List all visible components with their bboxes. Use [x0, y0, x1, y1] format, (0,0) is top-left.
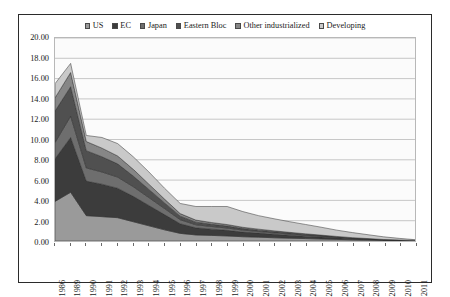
- x-axis-tick-label: 1992: [120, 280, 129, 296]
- x-axis-tick-label: 1986: [58, 280, 67, 296]
- x-axis-tickmark: [54, 243, 55, 246]
- x-axis-tick-label: 2004: [309, 280, 318, 296]
- stacked-area-plot: [55, 38, 415, 241]
- x-axis-tick-label: 2009: [388, 280, 397, 296]
- plot-area: [54, 37, 416, 242]
- legend-swatch-icon: [112, 23, 118, 29]
- y-axis: 20.0018.0016.0014.0012.0010.008.006.004.…: [19, 37, 52, 242]
- x-axis-tickmark: [70, 243, 71, 246]
- x-axis-tick-label: 1994: [152, 280, 161, 296]
- y-axis-tick-label: 4.00: [34, 197, 49, 206]
- x-axis-tick-label: 1993: [136, 280, 145, 296]
- x-axis-tickmark: [400, 243, 401, 246]
- chart-screenshot: USECJapanEastern BlocOther industrialize…: [0, 0, 450, 297]
- legend-swatch-icon: [235, 23, 241, 29]
- chart-frame: USECJapanEastern BlocOther industrialize…: [18, 14, 432, 283]
- legend-item-label: EC: [120, 22, 131, 30]
- legend-swatch-icon: [85, 23, 91, 29]
- legend-item-label: Japan: [148, 22, 167, 30]
- x-axis-tick-label: 1997: [199, 280, 208, 296]
- x-axis-tickmark: [306, 243, 307, 246]
- x-axis-tickmark: [148, 243, 149, 246]
- x-axis-tick-label: 2003: [294, 280, 303, 296]
- x-axis-tickmark: [101, 243, 102, 246]
- x-axis-tick-label: 1990: [89, 280, 98, 296]
- y-axis-tick-label: 10.00: [30, 135, 49, 144]
- x-axis-tickmark: [274, 243, 275, 246]
- x-axis-tick-label: 1989: [73, 280, 82, 296]
- x-axis-tickmark: [117, 243, 118, 246]
- y-axis-tick-label: 20.00: [30, 33, 49, 42]
- x-axis-tickmark: [227, 243, 228, 246]
- x-axis-tick-label: 1999: [231, 280, 240, 296]
- legend-item-other-industrialized[interactable]: Other industrialized: [235, 22, 309, 30]
- x-axis-tickmark: [180, 243, 181, 246]
- x-axis-tickmark: [85, 243, 86, 246]
- x-axis-tick-label: 2006: [341, 280, 350, 296]
- y-axis-tick-label: 8.00: [34, 156, 49, 165]
- y-axis-tick-label: 2.00: [34, 217, 49, 226]
- x-axis-tick-label: 2008: [372, 280, 381, 296]
- legend-item-us[interactable]: US: [85, 22, 104, 30]
- legend-item-label: Eastern Bloc: [184, 22, 227, 30]
- legend-item-developing[interactable]: Developing: [319, 22, 366, 30]
- legend-item-japan[interactable]: Japan: [140, 22, 167, 30]
- x-axis-tick-label: 2000: [246, 280, 255, 296]
- legend-item-eastern-bloc[interactable]: Eastern Bloc: [176, 22, 227, 30]
- y-axis-tick-label: 0.00: [34, 238, 49, 247]
- x-axis-tickmark: [243, 243, 244, 246]
- x-axis-tick-label: 2007: [357, 280, 366, 296]
- x-axis-tickmark: [353, 243, 354, 246]
- legend-swatch-icon: [140, 23, 146, 29]
- x-axis-tick-label: 1991: [105, 280, 114, 296]
- x-axis-tickmark: [196, 243, 197, 246]
- x-axis-tick-label: 1996: [183, 280, 192, 296]
- x-axis-tickmark: [416, 243, 417, 246]
- x-axis-tickmark: [133, 243, 134, 246]
- x-axis-tickmark: [322, 243, 323, 246]
- y-axis-tick-label: 18.00: [30, 53, 49, 62]
- x-axis: 1986198919901991199219931994199519961997…: [54, 243, 416, 283]
- x-axis-tickmark: [290, 243, 291, 246]
- legend-item-label: Other industrialized: [243, 22, 309, 30]
- x-axis-tick-label: 2011: [420, 280, 429, 296]
- x-axis-tick-label: 1998: [215, 280, 224, 296]
- x-axis-tickmark: [164, 243, 165, 246]
- legend-item-label: Developing: [327, 22, 366, 30]
- x-axis-tickmark: [369, 243, 370, 246]
- y-axis-tick-label: 14.00: [30, 94, 49, 103]
- x-axis-tick-label: 2005: [325, 280, 334, 296]
- x-axis-tickmark: [385, 243, 386, 246]
- x-axis-tick-label: 2002: [278, 280, 287, 296]
- x-axis-tickmark: [337, 243, 338, 246]
- x-axis-tick-label: 1995: [168, 280, 177, 296]
- x-axis-tick-label: 2010: [404, 280, 413, 296]
- legend-item-label: US: [93, 22, 104, 30]
- legend-item-ec[interactable]: EC: [112, 22, 131, 30]
- chart-legend: USECJapanEastern BlocOther industrialize…: [19, 22, 431, 30]
- legend-swatch-icon: [176, 23, 182, 29]
- x-axis-tickmark: [211, 243, 212, 246]
- x-axis-tick-label: 2001: [262, 280, 271, 296]
- x-axis-tickmark: [259, 243, 260, 246]
- y-axis-tick-label: 12.00: [30, 115, 49, 124]
- y-axis-tick-label: 16.00: [30, 74, 49, 83]
- y-axis-tick-label: 6.00: [34, 176, 49, 185]
- legend-swatch-icon: [319, 23, 325, 29]
